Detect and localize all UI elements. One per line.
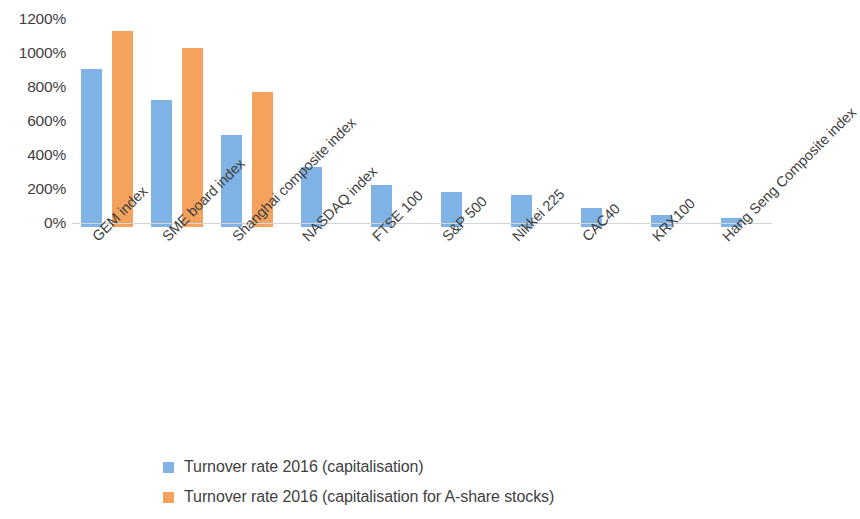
y-axis-tick-label: 600% — [0, 113, 66, 129]
legend-color-swatch — [163, 492, 174, 503]
bar-group — [72, 10, 142, 225]
bar-turnover-capitalisation — [221, 135, 242, 227]
x-axis-baseline — [72, 223, 772, 224]
bar-group — [562, 10, 632, 225]
chart-legend: Turnover rate 2016 (capitalisation)Turno… — [163, 452, 554, 512]
bar-turnover-a-share — [112, 31, 133, 227]
legend-item[interactable]: Turnover rate 2016 (capitalisation) — [163, 452, 554, 482]
legend-item-label: Turnover rate 2016 (capitalisation for A… — [184, 488, 554, 506]
bar-group — [422, 10, 492, 225]
bar-group — [352, 10, 422, 225]
bar-group — [632, 10, 702, 225]
y-axis-tick-label: 800% — [0, 79, 66, 95]
y-axis-tick-label: 1000% — [0, 45, 66, 61]
y-axis-tick-label: 1200% — [0, 11, 66, 27]
plot-area — [72, 10, 772, 225]
bar-group — [212, 10, 282, 225]
bar-turnover-capitalisation — [301, 167, 322, 227]
y-axis-tick-label: 200% — [0, 181, 66, 197]
y-axis-tick-label: 400% — [0, 147, 66, 163]
legend-item-label: Turnover rate 2016 (capitalisation) — [184, 458, 424, 476]
bar-turnover-capitalisation — [441, 192, 462, 227]
bar-group — [702, 10, 772, 225]
legend-item[interactable]: Turnover rate 2016 (capitalisation for A… — [163, 482, 554, 512]
y-axis: 1200%1000%800%600%400%200%0% — [0, 0, 66, 240]
bar-turnover-capitalisation — [651, 215, 672, 227]
bar-turnover-a-share — [252, 92, 273, 227]
y-axis-tick-label: 0% — [0, 215, 66, 231]
bar-group — [142, 10, 212, 225]
legend-color-swatch — [163, 462, 174, 473]
bar-turnover-capitalisation — [371, 185, 392, 227]
bar-group — [282, 10, 352, 225]
bar-turnover-capitalisation — [81, 69, 102, 227]
bar-turnover-a-share — [182, 48, 203, 227]
bar-turnover-capitalisation — [151, 100, 172, 227]
bar-turnover-capitalisation — [581, 208, 602, 227]
bar-group — [492, 10, 562, 225]
